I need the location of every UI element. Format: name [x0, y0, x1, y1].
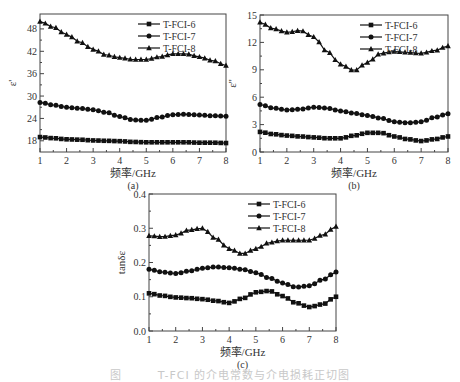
t-fci-7-marker [96, 108, 101, 113]
y-tick-label: 0.2 [134, 257, 147, 268]
series-t-fci-7 [38, 100, 229, 123]
t-fci-7-marker [296, 285, 301, 290]
t-fci-6-marker [302, 303, 307, 308]
y-tick-label: 48 [27, 23, 37, 34]
t-fci-7-marker [221, 265, 226, 270]
t-fci-6-marker [192, 140, 197, 145]
t-fci-6-marker [152, 292, 157, 297]
t-fci-6-marker [168, 295, 173, 300]
t-fci-7-marker [403, 120, 408, 125]
t-fci-6-marker [202, 140, 207, 145]
x-axis-label: 频率/GHz [331, 166, 377, 179]
t-fci-6-marker [181, 140, 186, 145]
x-tick-label: 1 [38, 155, 43, 166]
t-fci-7-marker [154, 115, 159, 120]
t-fci-6-marker [117, 139, 122, 144]
t-fci-7-marker [327, 106, 332, 111]
t-fci-7-marker [269, 276, 274, 281]
t-fci-6-marker [165, 140, 170, 145]
t-fci-6-marker [291, 300, 296, 305]
series-t-fci-7 [147, 265, 339, 290]
t-fci-6-marker [413, 138, 418, 143]
t-fci-6-marker [48, 136, 53, 141]
t-fci-6-marker [200, 297, 205, 302]
legend-t-fci-6-marker [147, 22, 152, 27]
t-fci-7-marker [80, 106, 85, 111]
t-fci-7-marker [328, 272, 333, 277]
t-fci-6-marker [189, 296, 194, 301]
x-tick-label: 7 [419, 155, 424, 166]
x-tick-label: 5 [144, 155, 149, 166]
t-fci-7-marker [123, 115, 128, 120]
t-fci-6-marker [43, 135, 48, 140]
t-fci-6-marker [179, 295, 184, 300]
t-fci-6-marker [349, 134, 354, 139]
t-fci-6-marker [338, 136, 343, 141]
legend-item-t-fci-6: T-FCI-6 [248, 199, 305, 210]
t-fci-7-marker [440, 112, 445, 117]
t-fci-7-marker [205, 265, 210, 270]
t-fci-6-marker [344, 135, 349, 140]
t-fci-7-marker [435, 114, 440, 119]
x-tick-label: 8 [446, 155, 451, 166]
series-t-fci-8 [257, 19, 451, 72]
y-tick-label: 42 [27, 46, 37, 57]
t-fci-7-marker [259, 272, 264, 277]
t-fci-6-marker [254, 290, 259, 295]
t-fci-7-marker [181, 112, 186, 117]
t-fci-7-marker [280, 281, 285, 286]
series-t-fci-6 [258, 130, 451, 144]
x-tick-label: 8 [224, 155, 229, 166]
t-fci-6-marker [149, 140, 154, 145]
t-fci-7-marker [284, 107, 289, 112]
t-fci-6-marker [323, 301, 328, 306]
t-fci-6-marker [123, 139, 128, 144]
t-fci-7-marker [413, 120, 418, 125]
t-fci-7-marker [264, 275, 269, 280]
t-fci-7-marker [195, 267, 200, 272]
t-fci-8-marker [306, 32, 312, 37]
t-fci-6-marker [403, 137, 408, 142]
y-tick-label: 0.0 [134, 326, 147, 337]
t-fci-6-marker [59, 137, 64, 142]
t-fci-7-marker [213, 113, 218, 118]
t-fci-6-marker [101, 138, 106, 143]
legend-label: T-FCI-8 [273, 223, 305, 234]
legend-t-fci-7-marker [147, 34, 152, 39]
t-fci-6-marker [392, 134, 397, 139]
t-fci-7-marker [334, 270, 339, 275]
t-fci-6-marker [139, 140, 144, 145]
figure-caption: 图 T-FCI 的介电常数与介电损耗正切图 [0, 366, 460, 382]
t-fci-7-marker [202, 113, 207, 118]
y-tick-label: 36 [27, 68, 37, 79]
chart-c-svg: 123456780.00.10.20.30.4频率/GHz(c)tanδεT-F… [100, 183, 350, 368]
t-fci-6-marker [259, 290, 264, 295]
legend-item-t-fci-7: T-FCI-7 [360, 32, 417, 43]
t-fci-7-marker [101, 110, 106, 115]
t-fci-6-marker [258, 130, 263, 135]
t-fci-6-marker [208, 140, 213, 145]
t-fci-7-marker [69, 105, 74, 110]
t-fci-6-marker [296, 301, 301, 306]
x-tick-label: 7 [307, 334, 312, 345]
legend-label: T-FCI-8 [163, 43, 195, 54]
t-fci-7-marker [59, 104, 64, 109]
x-tick-label: 6 [280, 334, 285, 345]
t-fci-7-marker [258, 102, 263, 107]
x-tick-label: 6 [392, 155, 397, 166]
x-tick-label: 5 [253, 334, 258, 345]
t-fci-7-marker [295, 107, 300, 112]
y-axis-label: ε' [6, 80, 18, 87]
t-fci-6-marker [371, 131, 376, 136]
t-fci-6-marker [224, 141, 229, 146]
t-fci-6-marker [270, 289, 275, 294]
x-tick-label: 4 [338, 155, 343, 166]
t-fci-7-marker [218, 114, 223, 119]
t-fci-6-marker [290, 134, 295, 139]
y-tick-label: 15 [247, 10, 257, 21]
legend-item-t-fci-7: T-FCI-7 [138, 31, 195, 42]
t-fci-7-marker [307, 283, 312, 288]
t-fci-7-marker [176, 112, 181, 117]
t-fci-6-marker [70, 137, 75, 142]
t-fci-6-marker [268, 132, 273, 137]
